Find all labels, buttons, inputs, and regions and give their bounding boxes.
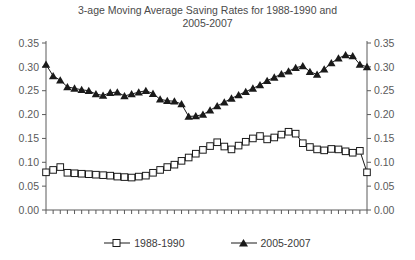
x-tick-label: 65 (325, 216, 337, 218)
x-tick-label: 69 (354, 216, 366, 218)
data-point-2005-2007 (227, 94, 235, 101)
data-point-1988-1990 (207, 143, 214, 150)
data-point-1988-1990 (100, 172, 107, 179)
data-point-1988-1990 (150, 169, 157, 176)
y-tick-label-right: 0.25 (374, 84, 395, 96)
data-point-1988-1990 (93, 171, 100, 178)
data-point-2005-2007 (313, 70, 321, 77)
x-tick-label: 53 (240, 216, 252, 218)
data-point-2005-2007 (49, 72, 57, 79)
y-tick-label-right: 0.15 (374, 132, 395, 144)
data-point-1988-1990 (143, 172, 150, 179)
y-tick-label-left: 0.10 (19, 156, 40, 168)
data-point-2005-2007 (284, 67, 292, 74)
data-point-1988-1990 (349, 149, 356, 156)
data-point-1988-1990 (171, 161, 178, 168)
data-point-2005-2007 (242, 88, 250, 95)
legend-label-1988-1990: 1988-1990 (134, 237, 184, 249)
data-point-1988-1990 (307, 144, 314, 151)
y-tick-label-left: 0.15 (19, 132, 40, 144)
data-point-2005-2007 (56, 76, 64, 83)
chart-container: 3-age Moving Average Saving Rates for 19… (0, 0, 415, 260)
chart-svg: 0.000.000.050.050.100.100.150.150.200.20… (0, 38, 415, 218)
data-point-2005-2007 (177, 100, 185, 107)
data-point-1988-1990 (64, 169, 71, 176)
data-point-1988-1990 (221, 143, 228, 150)
data-point-1988-1990 (314, 146, 321, 153)
data-point-1988-1990 (178, 158, 185, 165)
data-point-2005-2007 (213, 102, 221, 109)
x-tick-label: 41 (154, 216, 166, 218)
x-tick-label: 49 (211, 216, 223, 218)
data-point-1988-1990 (50, 167, 57, 174)
y-tick-label-right: 0.10 (374, 156, 395, 168)
data-point-2005-2007 (142, 87, 150, 94)
data-point-1988-1990 (257, 133, 264, 140)
y-tick-label-left: 0.30 (19, 61, 40, 73)
y-tick-label-left: 0.25 (19, 84, 40, 96)
y-tick-label-left: 0.05 (19, 180, 40, 192)
data-point-1988-1990 (271, 134, 278, 141)
data-point-2005-2007 (149, 90, 157, 97)
data-point-1988-1990 (357, 148, 364, 155)
data-point-2005-2007 (42, 60, 50, 67)
data-point-1988-1990 (114, 173, 121, 180)
data-point-1988-1990 (264, 136, 271, 143)
data-point-2005-2007 (206, 106, 214, 113)
x-tick-label: 37 (126, 216, 138, 218)
x-tick-label: 61 (297, 216, 309, 218)
data-point-1988-1990 (157, 167, 164, 174)
y-tick-label-right: 0.20 (374, 108, 395, 120)
y-tick-label-right: 0.35 (374, 38, 395, 49)
data-point-2005-2007 (249, 84, 257, 91)
legend-label-2005-2007: 2005-2007 (261, 237, 311, 249)
data-point-1988-1990 (321, 147, 328, 154)
data-point-2005-2007 (220, 98, 228, 105)
data-point-1988-1990 (200, 147, 207, 154)
data-point-1988-1990 (300, 140, 307, 147)
legend-marker-open-square (104, 237, 130, 249)
series-line-1988-1990 (46, 132, 367, 178)
data-point-2005-2007 (263, 77, 271, 84)
data-point-1988-1990 (86, 171, 93, 178)
series-line-2005-2007 (46, 55, 367, 117)
legend-marker-filled-triangle (231, 237, 257, 249)
y-tick-label-left: 0.20 (19, 108, 40, 120)
plot-area: 0.000.000.050.050.100.100.150.150.200.20… (0, 38, 415, 218)
y-tick-label-right: 0.05 (374, 180, 395, 192)
y-tick-label-left: 0.00 (19, 204, 40, 216)
data-point-1988-1990 (364, 169, 371, 176)
data-point-2005-2007 (341, 51, 349, 58)
data-point-2005-2007 (299, 62, 307, 69)
data-point-2005-2007 (199, 111, 207, 118)
x-tick-label: 33 (97, 216, 109, 218)
data-point-2005-2007 (256, 81, 264, 88)
data-point-1988-1990 (292, 130, 299, 137)
data-point-1988-1990 (335, 146, 342, 153)
data-point-1988-1990 (235, 142, 242, 149)
data-point-1988-1990 (242, 138, 249, 145)
data-point-1988-1990 (185, 154, 192, 161)
data-point-1988-1990 (328, 146, 335, 153)
data-point-2005-2007 (234, 91, 242, 98)
legend-item-2005-2007[interactable]: 2005-2007 (231, 237, 311, 249)
data-point-2005-2007 (327, 59, 335, 66)
legend-item-1988-1990[interactable]: 1988-1990 (104, 237, 184, 249)
data-point-1988-1990 (57, 164, 64, 171)
data-point-2005-2007 (92, 90, 100, 97)
data-point-1988-1990 (278, 131, 285, 138)
chart-legend: 1988-1990 2005-2007 (0, 232, 415, 254)
data-point-1988-1990 (214, 139, 221, 146)
x-tick-label: 45 (183, 216, 195, 218)
data-point-1988-1990 (228, 146, 235, 153)
data-point-2005-2007 (113, 88, 121, 95)
y-tick-label-right: 0.30 (374, 61, 395, 73)
chart-title: 3-age Moving Average Saving Rates for 19… (0, 4, 415, 30)
data-point-2005-2007 (270, 73, 278, 80)
x-tick-label: 29 (69, 216, 81, 218)
data-point-1988-1990 (164, 164, 171, 171)
y-tick-label-right: 0.00 (374, 204, 395, 216)
data-point-1988-1990 (128, 174, 135, 181)
data-point-1988-1990 (78, 170, 85, 177)
data-point-1988-1990 (135, 173, 142, 180)
